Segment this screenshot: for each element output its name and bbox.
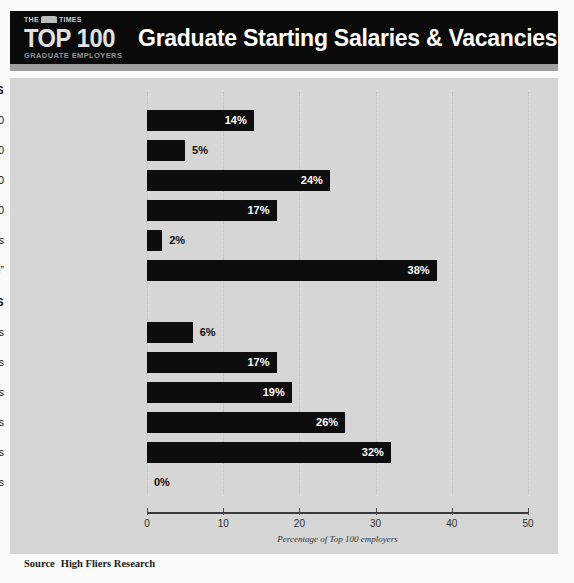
bar-value-label: 17% — [248, 352, 270, 373]
bar-value-label: 19% — [263, 382, 285, 403]
x-axis-tick — [147, 508, 148, 515]
x-axis-tick — [299, 508, 300, 515]
source-label: Source — [24, 558, 55, 569]
x-axis-tick — [528, 508, 529, 515]
chart-row: £25,001-£30,00024% — [10, 170, 558, 191]
bar-value-label: 24% — [301, 170, 323, 191]
x-axis-line — [147, 512, 528, 514]
x-axis-caption: Percentage of Top 100 employers — [147, 534, 528, 544]
category-label: £25,001-£30,000 — [0, 170, 4, 191]
chart-page: THE TIMES TOP 100 GRADUATE EMPLOYERS Gra… — [0, 0, 574, 583]
bar: 17% — [147, 352, 277, 373]
bar: 32% — [147, 442, 391, 463]
bar: 19% — [147, 382, 292, 403]
bar: 17% — [147, 200, 277, 221]
bar-value-label: 14% — [225, 110, 247, 131]
x-axis-tick-label: 20 — [294, 518, 305, 529]
bar — [147, 322, 193, 343]
chart-row: 251-500 vacancies17% — [10, 352, 558, 373]
source-value: High Fliers Research — [61, 558, 155, 569]
chart-row: No vacancies0% — [10, 472, 558, 493]
chart-row: More than £35,00014% — [10, 110, 558, 131]
x-axis-tick-label: 0 — [144, 518, 150, 529]
bar-value-label: 5% — [192, 140, 208, 161]
category-label: 101-250 vacancies — [0, 382, 4, 403]
times-crest-icon — [41, 16, 57, 23]
bar: 24% — [147, 170, 330, 191]
category-label: 251-500 vacancies — [0, 352, 4, 373]
chart-row: “Competitive”38% — [10, 260, 558, 281]
logo-graduate-employers-text: GRADUATE EMPLOYERS — [24, 52, 132, 60]
x-axis-tick-label: 50 — [522, 518, 533, 529]
plot-area: SALARIESMore than £35,00014%£30,001-£35,… — [10, 78, 558, 554]
bar-value-label: 17% — [248, 200, 270, 221]
x-axis-tick-label: 10 — [218, 518, 229, 529]
section-heading-salaries: SALARIES — [0, 84, 4, 96]
category-label: £20,000 or less — [0, 230, 4, 251]
category-label: 51-100 vacancies — [0, 412, 4, 433]
header-shadow-strip — [10, 64, 558, 71]
header-bar: THE TIMES TOP 100 GRADUATE EMPLOYERS Gra… — [10, 11, 558, 64]
x-axis-tick — [376, 508, 377, 515]
chart-row: 101-250 vacancies19% — [10, 382, 558, 403]
category-label: £30,001-£35,000 — [0, 140, 4, 161]
chart-header: THE TIMES TOP 100 GRADUATE EMPLOYERS Gra… — [10, 11, 558, 71]
logo-top100-text: TOP 100 — [24, 25, 127, 51]
masthead-text-times: TIMES — [59, 16, 82, 23]
category-label: 1-50 vacancies — [0, 442, 4, 463]
x-axis-tick — [452, 508, 453, 515]
category-label: More than 500 vacancies — [0, 322, 4, 343]
chart-row: £20,001-£25,00017% — [10, 200, 558, 221]
bar-value-label: 6% — [200, 322, 216, 343]
bar — [147, 230, 162, 251]
bar-value-label: 0% — [154, 472, 170, 493]
bar — [147, 140, 185, 161]
category-label: More than £35,000 — [0, 110, 4, 131]
source-note: SourceHigh Fliers Research — [24, 558, 155, 569]
bar-value-label: 32% — [362, 442, 384, 463]
x-axis-tick-label: 30 — [370, 518, 381, 529]
times-top100-logo: THE TIMES TOP 100 GRADUATE EMPLOYERS — [24, 16, 132, 60]
x-axis-tick-label: 40 — [446, 518, 457, 529]
bar-value-label: 26% — [316, 412, 338, 433]
chart-row: £20,000 or less2% — [10, 230, 558, 251]
section-heading-vacancies: VACANCIES — [0, 296, 4, 308]
category-label: “Competitive” — [0, 260, 4, 281]
masthead-text-the: THE — [24, 16, 39, 23]
logo-masthead: THE TIMES — [24, 16, 132, 23]
bar-value-label: 2% — [169, 230, 185, 251]
bar: 38% — [147, 260, 437, 281]
bar-value-label: 38% — [408, 260, 430, 281]
category-label: No vacancies — [0, 472, 4, 493]
bar: 26% — [147, 412, 345, 433]
chart-row: More than 500 vacancies6% — [10, 322, 558, 343]
chart-row: £30,001-£35,0005% — [10, 140, 558, 161]
chart-row: 51-100 vacancies26% — [10, 412, 558, 433]
x-axis-tick — [223, 508, 224, 515]
chart-row: 1-50 vacancies32% — [10, 442, 558, 463]
bar: 14% — [147, 110, 254, 131]
category-label: £20,001-£25,000 — [0, 200, 4, 221]
page-title: Graduate Starting Salaries & Vacancies i… — [138, 24, 558, 52]
chart-panel: SALARIESMore than £35,00014%£30,001-£35,… — [10, 78, 558, 554]
